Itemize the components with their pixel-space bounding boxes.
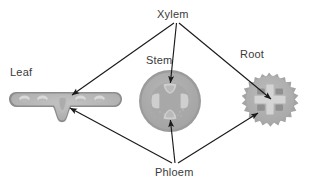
label-phloem: Phloem [155, 166, 194, 178]
diagram-svg [0, 0, 315, 188]
leaf-bundle [96, 98, 104, 101]
label-root: Root [240, 48, 264, 60]
label-stem: Stem [146, 54, 172, 66]
label-leaf: Leaf [10, 66, 32, 78]
leaf-bundle [21, 98, 29, 101]
root-structure [242, 73, 299, 127]
root-quadrant-block [275, 88, 283, 94]
label-xylem: Xylem [157, 8, 189, 20]
root-quadrant-block [257, 105, 265, 111]
leaf-bundle [77, 98, 85, 101]
root-quadrant-block [275, 105, 283, 111]
leaf-structure [9, 92, 122, 122]
diagram-canvas: Xylem Phloem Stem Root Leaf [0, 0, 315, 188]
leaf-bundle [39, 98, 47, 101]
stem-structure [139, 70, 201, 132]
stem-bundle-left [152, 94, 160, 109]
